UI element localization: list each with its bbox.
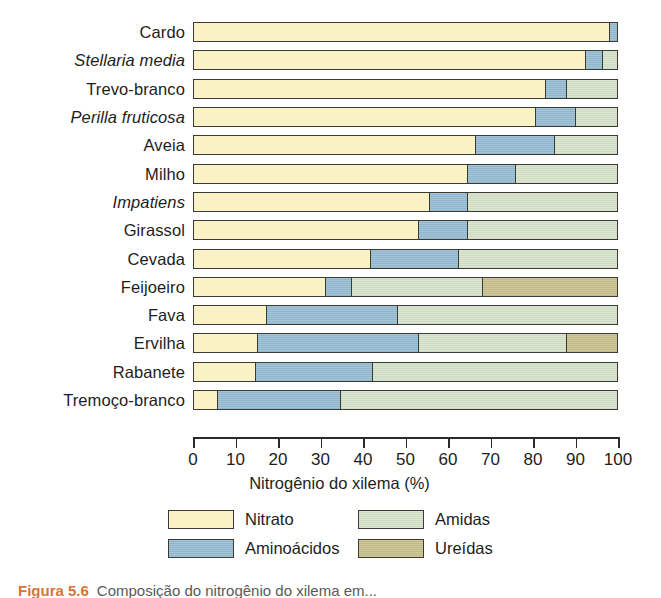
bar-segment-amidas <box>467 221 617 239</box>
chart-row: Milho <box>0 159 661 187</box>
x-axis-tick-label: 0 <box>188 450 197 470</box>
figure-caption-text: Composição do nitrogênio do xilema em... <box>97 582 377 598</box>
legend-item: Ureídas <box>358 539 548 558</box>
legend-item: Aminoácidos <box>168 539 358 558</box>
stacked-bar <box>193 277 618 297</box>
x-axis-title: Nitrogênio do xilema (%) <box>0 474 661 493</box>
x-axis-tick-label: 100 <box>604 450 632 470</box>
bar-segment-nitrato <box>194 136 475 154</box>
bar-segment-amino <box>535 108 575 126</box>
legend-label: Ureídas <box>435 539 493 558</box>
x-axis-tick-label: 60 <box>439 450 458 470</box>
legend-swatch-amidas <box>358 510 424 529</box>
x-axis <box>193 437 618 451</box>
legend-item: Amidas <box>358 510 548 529</box>
bar-segment-amino <box>257 334 418 352</box>
category-label: Fava <box>148 306 185 325</box>
x-axis-tick <box>448 437 450 448</box>
chart-legend: NitratoAmidasAminoácidosUreídas <box>168 505 568 563</box>
legend-item: Nitrato <box>168 510 358 529</box>
legend-label: Amidas <box>435 510 490 529</box>
bar-segment-nitrato <box>194 306 266 324</box>
plot-area: CardoStellaria mediaTrevo-brancoPerilla … <box>0 18 661 418</box>
bar-segment-nitrato <box>194 108 535 126</box>
stacked-bar <box>193 50 618 70</box>
bar-segment-amino <box>418 221 467 239</box>
bar-segment-amidas <box>372 363 617 381</box>
x-axis-tick <box>321 437 323 448</box>
x-axis-tick <box>618 437 620 448</box>
bar-segment-amidas <box>418 334 566 352</box>
bar-segment-amidas <box>515 165 617 183</box>
bar-segment-amidas <box>566 80 617 98</box>
chart-row: Girassol <box>0 216 661 244</box>
stacked-bar <box>193 333 618 353</box>
chart-row: Trevo-branco <box>0 75 661 103</box>
bar-segment-amidas <box>397 306 617 324</box>
x-axis-tick-label: 50 <box>396 450 415 470</box>
stacked-bar <box>193 79 618 99</box>
bar-segment-nitrato <box>194 221 418 239</box>
bar-segment-amino <box>475 136 553 154</box>
category-label: Impatiens <box>113 192 185 211</box>
x-axis-tick-labels: 0102030405060708090100 <box>0 450 661 472</box>
bar-segment-amino <box>429 193 467 211</box>
bar-segment-amino <box>585 51 602 69</box>
bar-segment-nitrato <box>194 278 325 296</box>
chart-row: Perilla fruticosa <box>0 103 661 131</box>
bar-segment-nitrato <box>194 80 545 98</box>
bar-segment-amidas <box>467 193 617 211</box>
x-axis-tick <box>576 437 578 448</box>
bar-segment-amino <box>545 80 566 98</box>
bar-segment-ureidas <box>566 334 617 352</box>
stacked-bar <box>193 220 618 240</box>
category-label: Aveia <box>144 136 185 155</box>
bar-segment-amino <box>467 165 516 183</box>
bar-segment-nitrato <box>194 391 217 409</box>
bar-segment-nitrato <box>194 250 370 268</box>
stacked-bar <box>193 390 618 410</box>
category-label: Perilla fruticosa <box>71 108 186 127</box>
stacked-bar <box>193 192 618 212</box>
category-label: Girassol <box>124 221 185 240</box>
x-axis-tick <box>363 437 365 448</box>
bar-segment-amidas <box>575 108 617 126</box>
bar-segment-nitrato <box>194 363 255 381</box>
x-axis-tick <box>236 437 238 448</box>
x-axis-tick-label: 20 <box>269 450 288 470</box>
x-axis-tick-label: 90 <box>566 450 585 470</box>
stacked-bar <box>193 249 618 269</box>
x-axis-tick-label: 80 <box>524 450 543 470</box>
stacked-bar <box>193 135 618 155</box>
stacked-bar <box>193 22 618 42</box>
bar-segment-amidas <box>458 250 617 268</box>
bar-segment-nitrato <box>194 193 429 211</box>
legend-swatch-amino <box>168 539 234 558</box>
category-label: Rabanete <box>113 362 185 381</box>
bar-segment-amino <box>325 278 350 296</box>
stacked-bar <box>193 362 618 382</box>
bar-segment-amidas <box>602 51 617 69</box>
category-label: Feijoeiro <box>121 277 185 296</box>
category-label: Ervilha <box>134 334 185 353</box>
legend-swatch-ureidas <box>358 539 424 558</box>
x-axis-title-text: Nitrogênio do xilema (%) <box>249 474 430 492</box>
chart-row: Stellaria media <box>0 46 661 74</box>
bar-segment-amidas <box>554 136 617 154</box>
x-axis-tick <box>278 437 280 448</box>
category-label: Cevada <box>128 249 185 268</box>
x-axis-tick-label: 40 <box>354 450 373 470</box>
x-axis-tick <box>533 437 535 448</box>
category-label: Milho <box>145 164 185 183</box>
x-axis-tick-label: 30 <box>311 450 330 470</box>
chart-row: Ervilha <box>0 329 661 357</box>
bar-segment-amino <box>370 250 459 268</box>
figure-stacked-bar-chart: CardoStellaria mediaTrevo-brancoPerilla … <box>0 0 661 598</box>
category-label: Stellaria media <box>74 51 185 70</box>
figure-caption: Figura 5.6Composição do nitrogênio do xi… <box>0 582 661 598</box>
category-label: Trevo-branco <box>86 79 185 98</box>
chart-row: Tremoço-branco <box>0 386 661 414</box>
bar-segment-nitrato <box>194 334 257 352</box>
bar-segment-nitrato <box>194 165 467 183</box>
legend-swatch-nitrato <box>168 510 234 529</box>
